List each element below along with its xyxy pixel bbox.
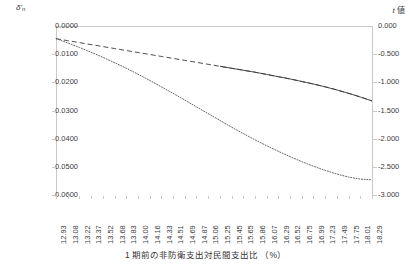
x-axis-title: 1 期前の非防衛支出対民間支出比 （%） [0,248,411,260]
x-axis-tick-mark [115,196,116,199]
x-axis-tick-mark [255,196,256,199]
x-axis-tick-mark [150,196,151,199]
right-axis-tick-mark [373,167,377,168]
x-axis-tick-mark [196,196,197,199]
right-axis-tick-mark [373,111,377,112]
x-axis-tick-mark [278,196,279,199]
x-axis-tick-mark [185,196,186,199]
series-layer [0,0,411,267]
x-axis-tick-mark [290,196,291,199]
right-axis-tick-mark [373,195,377,196]
left-axis-tick-mark [52,167,56,168]
x-axis-tick-mark [103,196,104,199]
x-axis-tick-mark [79,196,80,199]
x-axis-tick-mark [208,196,209,199]
x-axis-tick-mark [360,196,361,199]
x-axis-tick-mark [243,196,244,199]
x-axis-tick-mark [349,196,350,199]
series-t-value-line [56,39,372,180]
chart-container: δ'n t 値 0.0000-0.0100-0.0200-0.0300-0.04… [0,0,411,267]
x-axis-tick-mark [325,196,326,199]
x-axis-tick-mark [91,196,92,199]
left-axis-tick-mark [52,139,56,140]
x-axis-tick-mark [68,196,69,199]
right-axis-tick-mark [373,82,377,83]
series-delta-n-line [56,39,372,101]
x-axis-tick-mark [161,196,162,199]
x-axis-tick-mark [138,196,139,199]
x-axis-tick-mark [337,196,338,199]
x-axis-tick-mark [56,196,57,199]
x-axis-tick-mark [173,196,174,199]
right-axis-tick-mark [373,54,377,55]
x-axis-tick-mark [302,196,303,199]
left-axis-tick-mark [52,54,56,55]
right-axis-tick-mark [373,139,377,140]
x-axis-tick-mark [220,196,221,199]
x-axis-tick-mark [313,196,314,199]
series-delta-n-solid-segment [220,66,372,101]
left-axis-tick-mark [52,82,56,83]
left-axis-tick-mark [52,111,56,112]
x-axis-tick-mark [232,196,233,199]
x-axis-tick-mark [267,196,268,199]
x-axis-tick-mark [126,196,127,199]
x-axis-tick-mark [372,196,373,199]
